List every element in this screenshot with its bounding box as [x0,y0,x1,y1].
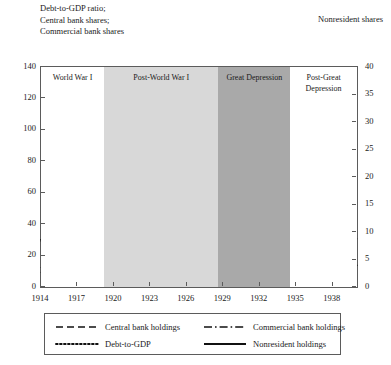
legend-item-nonresident-holdings[interactable]: Nonresident holdings [203,336,326,352]
legend-item-commercial-bank-holdings[interactable]: Commercial bank holdings [203,319,345,335]
legend-label: Nonresident holdings [253,340,326,349]
y-tickmark-right-5 [352,259,356,260]
right-axis-caption: Nonresident shares [318,14,383,26]
y-tick-right-25: 25 [365,144,389,153]
y-tickmark-left-40 [41,223,45,224]
x-tickmark-1914 [40,282,41,286]
left-axis-caption: Debt-to-GDP ratio; Central bank shares; … [40,3,124,38]
period-band-1 [41,67,104,287]
y-tickmark-right-30 [352,121,356,122]
legend-swatch-icon [203,322,247,332]
y-tickmark-left-120 [41,97,45,98]
y-tick-left-100: 100 [12,124,36,133]
x-tickmark-1935 [295,282,296,286]
y-tick-right-15: 15 [365,199,389,208]
y-tick-left-20: 20 [12,250,36,259]
legend-label: Central bank holdings [105,323,180,332]
y-tickmark-right-40 [352,66,356,67]
x-tick-1917: 1917 [56,294,96,303]
y-tickmark-right-35 [352,94,356,95]
x-tickmark-1923 [149,282,150,286]
period-band-4 [290,67,357,287]
legend-item-debt-to-gdp[interactable]: Debt-to-GDP [55,336,151,352]
legend-item-central-bank-holdings[interactable]: Central bank holdings [55,319,180,335]
period-band-label-4: Post-Great Depression [290,73,357,94]
x-tickmark-1938 [332,282,333,286]
x-tickmark-1926 [186,282,187,286]
y-tick-right-35: 35 [365,89,389,98]
y-tick-left-140: 140 [12,62,36,71]
y-tickmark-right-0 [352,286,356,287]
x-tick-1932: 1932 [239,294,279,303]
x-tickmark-1917 [76,282,77,286]
y-tick-right-20: 20 [365,172,389,181]
period-band-3 [218,67,290,287]
y-tickmark-left-100 [41,129,45,130]
y-tickmark-right-25 [352,149,356,150]
y-tick-left-80: 80 [12,156,36,165]
x-tickmark-1932 [259,282,260,286]
y-tick-right-40: 40 [365,62,389,71]
y-tick-right-0: 0 [365,282,389,291]
period-band-label-1: World War I [41,73,104,84]
y-tick-right-30: 30 [365,117,389,126]
period-band-label-2: Post-World War I [104,73,218,84]
x-tick-1929: 1929 [202,294,242,303]
legend-swatch-icon [55,322,99,332]
y-tickmark-right-20 [352,176,356,177]
x-tick-1923: 1923 [129,294,169,303]
y-tick-left-60: 60 [12,187,36,196]
y-tick-left-40: 40 [12,219,36,228]
y-tickmark-left-140 [41,66,45,67]
x-tick-1935: 1935 [275,294,315,303]
legend-swatch-icon [203,339,247,349]
y-tick-left-0: 0 [12,282,36,291]
y-tickmark-right-15 [352,204,356,205]
period-band-label-3: Great Depression [218,73,290,84]
legend-label: Debt-to-GDP [105,340,151,349]
y-tickmark-left-60 [41,192,45,193]
y-tick-right-5: 5 [365,254,389,263]
y-tickmark-right-10 [352,231,356,232]
y-tick-left-120: 120 [12,93,36,102]
chart-plot-area: World War IPost-World War IGreat Depress… [40,66,358,288]
y-tickmark-left-20 [41,255,45,256]
x-tick-1926: 1926 [166,294,206,303]
x-tick-1920: 1920 [93,294,133,303]
x-tickmark-1920 [113,282,114,286]
y-tickmark-left-80 [41,160,45,161]
x-tick-1914: 1914 [20,294,60,303]
legend-swatch-icon [55,339,99,349]
legend-label: Commercial bank holdings [253,323,345,332]
x-tickmark-1929 [222,282,223,286]
chart-legend: Central bank holdingsCommercial bank hol… [44,313,341,355]
y-tick-right-10: 10 [365,227,389,236]
y-tickmark-left-0 [41,286,45,287]
period-band-2 [104,67,218,287]
x-tick-1938: 1938 [312,294,352,303]
